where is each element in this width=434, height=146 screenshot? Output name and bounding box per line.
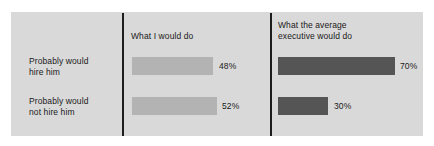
column-divider-right: [270, 13, 272, 136]
row-label-probably-would-not-hire-him: Probably would not hire him: [29, 96, 121, 117]
bar-exec-not-hire: [278, 97, 328, 115]
comparison-bar-chart: What I would do What the average executi…: [0, 0, 434, 146]
bar-value-mine-hire: 48%: [219, 57, 236, 75]
column-divider-left: [122, 13, 124, 136]
bar-mine-not-hire: [132, 97, 217, 115]
row-label-probably-would-hire-him: Probably would hire him: [29, 56, 121, 77]
bar-exec-hire: [278, 57, 395, 75]
column-header-what-average-executive-would-do: What the average executive would do: [278, 20, 418, 41]
bar-value-exec-not-hire: 30%: [334, 97, 351, 115]
bar-value-exec-hire: 70%: [400, 57, 417, 75]
column-header-what-i-would-do: What I would do: [131, 31, 251, 42]
bar-mine-hire: [132, 57, 213, 75]
bar-value-mine-not-hire: 52%: [222, 97, 239, 115]
